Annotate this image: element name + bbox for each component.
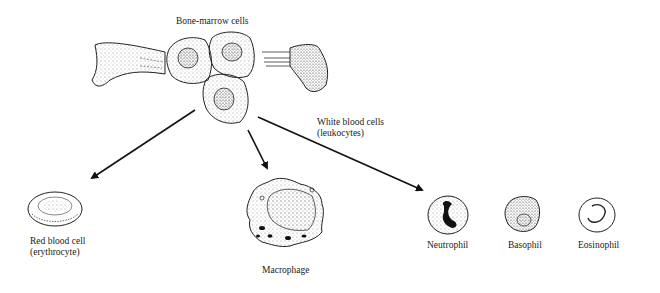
neutrophil-icon	[428, 196, 468, 234]
arrow-to-rbc	[92, 110, 195, 178]
basophil-icon	[505, 197, 540, 232]
bone-marrow-cell-icon	[167, 38, 212, 84]
branch-label-line1: White blood cells	[317, 117, 384, 128]
diagram-canvas	[0, 0, 660, 293]
branch-label-line2: (leukocytes)	[317, 128, 384, 139]
arrow-to-macrophage	[248, 130, 267, 168]
bone-marrow-cell-icon	[209, 32, 254, 78]
eosinophil-icon	[579, 198, 615, 232]
neutrophil-label: Neutrophil	[427, 240, 468, 251]
eosinophil-label: Eosinophil	[578, 240, 619, 251]
branch-label: White blood cells (leukocytes)	[317, 117, 384, 139]
macrophage-label: Macrophage	[262, 265, 309, 276]
bone-left-icon	[92, 43, 165, 86]
rbc-label: Red blood cell (erythrocyte)	[30, 236, 85, 258]
red-blood-cell-icon	[28, 192, 82, 226]
bone-marrow-cell-icon	[203, 74, 248, 123]
macrophage-icon	[247, 178, 323, 246]
rbc-label-line1: Red blood cell	[30, 236, 85, 247]
rbc-label-line2: (erythrocyte)	[30, 247, 85, 258]
basophil-label: Basophil	[508, 240, 542, 251]
bone-right-icon	[262, 45, 328, 92]
source-label: Bone-marrow cells	[176, 16, 249, 27]
